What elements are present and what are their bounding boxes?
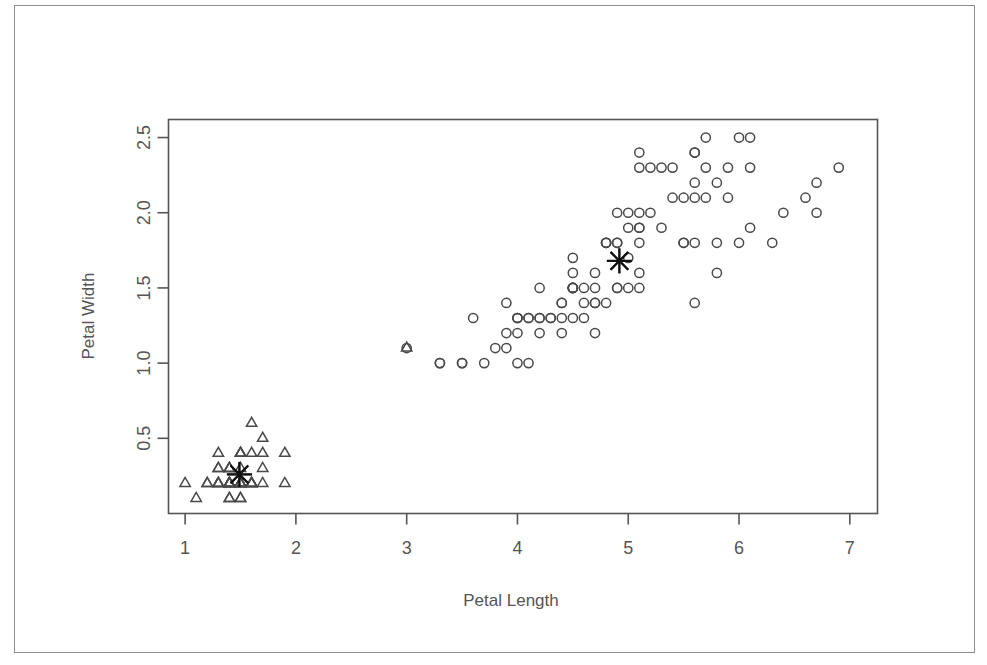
data-point-triangle (246, 447, 256, 456)
data-point-circle (768, 238, 777, 247)
y-axis-title: Petal Width (79, 273, 98, 360)
data-point-circle (712, 178, 721, 187)
data-point-circle (601, 298, 610, 307)
data-point-circle (579, 298, 588, 307)
data-point-circle (469, 313, 478, 322)
data-point-circle (812, 178, 821, 187)
data-point-circle (590, 298, 599, 307)
data-point-triangle (280, 447, 290, 456)
data-point-triangle (246, 417, 256, 426)
data-point-circle (635, 208, 644, 217)
x-tick-label: 7 (845, 538, 855, 558)
data-point-circle (457, 359, 466, 368)
x-tick-label: 5 (623, 538, 633, 558)
data-point-circle (535, 313, 544, 322)
data-point-circle (668, 193, 677, 202)
data-point-circle (734, 133, 743, 142)
data-point-triangle (191, 492, 201, 501)
data-point-triangle (213, 447, 223, 456)
data-point-circle (435, 359, 444, 368)
data-point-circle (746, 223, 755, 232)
y-tick-label: 1.0 (135, 351, 155, 376)
x-tick-label: 6 (734, 538, 744, 558)
centroid-cluster-2 (607, 248, 632, 273)
data-point-circle (701, 193, 710, 202)
scatter-plot-figure: 1234567 0.51.01.52.02.5 Petal Length Pet… (0, 0, 987, 665)
data-point-circle (524, 359, 533, 368)
x-tick-label: 3 (402, 538, 412, 558)
data-point-circle (746, 133, 755, 142)
series-cluster-2-markers (402, 133, 843, 368)
data-point-circle (579, 313, 588, 322)
data-point-circle (624, 283, 633, 292)
data-point-triangle (213, 477, 223, 486)
data-point-circle (590, 268, 599, 277)
centroid-cluster-1 (227, 462, 252, 487)
data-point-circle (590, 328, 599, 337)
data-point-circle (635, 148, 644, 157)
data-point-circle (746, 163, 755, 172)
data-point-circle (646, 163, 655, 172)
data-point-circle (557, 328, 566, 337)
data-point-circle (491, 343, 500, 352)
data-point-circle (635, 163, 644, 172)
data-point-circle (568, 268, 577, 277)
data-point-circle (624, 223, 633, 232)
data-point-circle (624, 208, 633, 217)
data-point-circle (568, 283, 577, 292)
data-point-circle (690, 178, 699, 187)
series-cluster-1-markers (180, 342, 412, 501)
data-point-circle (690, 148, 699, 157)
data-point-circle (590, 283, 599, 292)
data-point-circle (801, 193, 810, 202)
data-point-triangle (280, 477, 290, 486)
data-point-circle (546, 313, 555, 322)
data-point-circle (834, 163, 843, 172)
data-point-triangle (257, 477, 267, 486)
data-point-circle (679, 193, 688, 202)
data-point-circle (480, 359, 489, 368)
data-point-circle (535, 328, 544, 337)
data-point-circle (712, 238, 721, 247)
data-point-circle (568, 253, 577, 262)
data-point-triangle (235, 492, 245, 501)
data-point-circle (502, 343, 511, 352)
data-point-triangle (180, 477, 190, 486)
data-point-circle (513, 313, 522, 322)
data-point-circle (701, 163, 710, 172)
y-tick-label: 0.5 (135, 426, 155, 451)
data-point-triangle (213, 462, 223, 471)
data-point-triangle (202, 477, 212, 486)
data-point-circle (568, 313, 577, 322)
data-point-circle (635, 223, 644, 232)
data-point-circle (613, 208, 622, 217)
data-point-circle (812, 208, 821, 217)
data-point-triangle (235, 447, 245, 456)
data-point-circle (657, 223, 666, 232)
y-axis-ticks: 0.51.01.52.02.5 (135, 125, 169, 451)
data-point-triangle (257, 462, 267, 471)
data-point-circle (690, 298, 699, 307)
figure-page: 1234567 0.51.01.52.02.5 Petal Length Pet… (0, 0, 987, 665)
y-tick-label: 1.5 (135, 275, 155, 300)
data-point-circle (646, 208, 655, 217)
data-point-circle (557, 313, 566, 322)
data-point-circle (635, 283, 644, 292)
data-point-circle (513, 328, 522, 337)
data-point-triangle (257, 432, 267, 441)
data-point-circle (690, 193, 699, 202)
data-point-circle (723, 193, 732, 202)
data-point-circle (579, 283, 588, 292)
data-point-circle (734, 238, 743, 247)
x-tick-label: 4 (512, 538, 522, 558)
x-axis-title: Petal Length (463, 591, 558, 610)
data-point-circle (723, 163, 732, 172)
data-point-circle (635, 238, 644, 247)
data-point-circle (535, 283, 544, 292)
data-point-circle (613, 238, 622, 247)
data-point-triangle (257, 447, 267, 456)
data-point-triangle (224, 492, 234, 501)
data-point-circle (557, 298, 566, 307)
data-point-circle (712, 268, 721, 277)
data-point-circle (513, 359, 522, 368)
